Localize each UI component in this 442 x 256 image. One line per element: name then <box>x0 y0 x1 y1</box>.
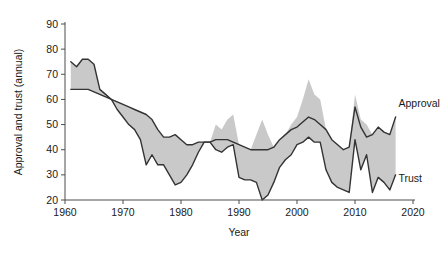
approval-trust-area-chart: 2030405060708090 19601970198019902000201… <box>0 0 442 256</box>
x-axis-title: Year <box>228 226 250 238</box>
x-tick-label: 1960 <box>53 206 77 218</box>
y-axis-title: Approval and trust (annual) <box>12 49 24 176</box>
y-tick-label: 90 <box>46 18 58 30</box>
x-tick-label: 1980 <box>169 206 193 218</box>
y-tick-label: 20 <box>46 194 58 206</box>
y-tick-label: 80 <box>46 43 58 55</box>
x-tick-label: 2010 <box>343 206 367 218</box>
y-tick-label: 40 <box>46 143 58 155</box>
y-tick-label: 50 <box>46 118 58 130</box>
y-tick-label: 70 <box>46 68 58 80</box>
approval-series-label: Approval <box>399 97 440 109</box>
x-tick-label: 1970 <box>111 206 135 218</box>
y-tick-label: 30 <box>46 168 58 180</box>
x-tick-label: 1990 <box>227 206 251 218</box>
x-tick-label: 2020 <box>401 206 425 218</box>
y-tick-label: 60 <box>46 93 58 105</box>
chart-container: 2030405060708090 19601970198019902000201… <box>0 0 442 256</box>
x-tick-label: 2000 <box>285 206 309 218</box>
trust-series-label: Trust <box>399 172 423 184</box>
